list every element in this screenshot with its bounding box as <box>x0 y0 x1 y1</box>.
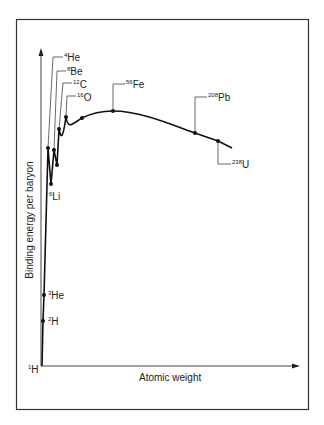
label-c12: 12C <box>73 79 87 90</box>
label-o16: 16O <box>77 92 92 103</box>
y-axis-label: Binding energy per baryon <box>24 161 35 278</box>
leader-fe56 <box>113 84 125 111</box>
x-axis-arrowhead <box>292 364 300 369</box>
point-u238 <box>216 139 220 143</box>
figure-frame <box>17 20 309 410</box>
label-fe56: 56Fe <box>126 79 145 90</box>
point-he4 <box>46 146 50 150</box>
data-points <box>41 109 220 323</box>
leader-pb208 <box>195 97 207 133</box>
label-pb208: 208Pb <box>208 92 231 103</box>
label-he4: 4He <box>64 52 81 63</box>
point-c12 <box>57 127 61 131</box>
label-h2: 2H <box>48 316 59 327</box>
point-o16 <box>64 115 68 119</box>
label-he3: 3He <box>48 290 65 301</box>
label-be8: 8Be <box>67 66 83 77</box>
leader-o16 <box>66 96 76 117</box>
point-pb208 <box>193 131 197 135</box>
point-li6 <box>49 182 53 186</box>
binding-energy-diagram: Atomic weight Binding energy per baryon … <box>0 0 324 425</box>
point-li7 <box>55 163 59 167</box>
point-mid <box>80 116 84 120</box>
label-li6: 6Li <box>49 191 60 202</box>
label-h1: 1H <box>28 364 39 375</box>
point-h2 <box>41 319 45 323</box>
point-be8 <box>52 148 56 152</box>
point-he3 <box>42 293 46 297</box>
y-axis-arrowhead <box>39 48 44 56</box>
x-axis-label: Atomic weight <box>139 372 201 383</box>
point-fe56 <box>111 109 115 113</box>
binding-energy-curve <box>42 111 232 366</box>
label-u238: 238U <box>232 159 249 170</box>
